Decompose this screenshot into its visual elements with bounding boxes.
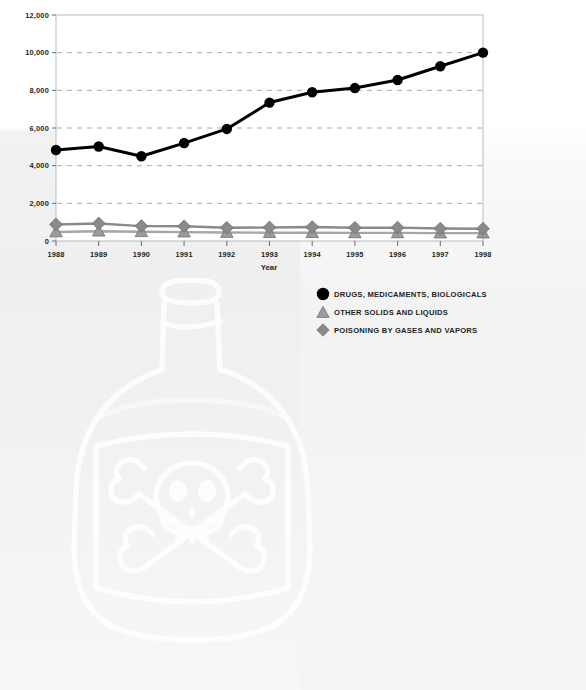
y-axis-tick-label: 4,000: [30, 161, 50, 170]
legend-triangle-icon: [316, 304, 334, 320]
data-point-circle: [392, 75, 402, 85]
x-axis-tick-label: 1998: [474, 250, 491, 259]
y-axis-tick-label: 8,000: [30, 86, 50, 95]
y-axis-tick-label: 6,000: [30, 124, 50, 133]
legend-diamond-icon: [316, 322, 334, 338]
data-point-circle: [264, 97, 274, 107]
x-axis-tick-label: 1993: [261, 250, 278, 259]
x-axis-tick-label: 1997: [432, 250, 449, 259]
chart-legend: DRUGS, MEDICAMENTS, BIOLOGICALS OTHER SO…: [316, 286, 487, 340]
line-chart: 02,0004,0006,0008,00010,00012,000 198819…: [0, 0, 586, 285]
x-axis-tick-label: 1989: [90, 250, 107, 259]
x-axis-tick-label: 1995: [346, 250, 363, 259]
legend-circle-icon: [316, 286, 334, 302]
data-point-circle: [350, 83, 360, 93]
data-point-circle: [478, 47, 488, 57]
legend-item-gases-vapors: POISONING BY GASES AND VAPORS: [316, 322, 487, 338]
y-axis-ticks: [52, 15, 56, 241]
x-axis-tick-label: 1990: [133, 250, 150, 259]
data-point-circle: [435, 61, 445, 71]
legend-label-other-solids: OTHER SOLIDS AND LIQUIDS: [334, 308, 448, 317]
x-axis-tick-label: 1988: [47, 250, 64, 259]
legend-label-drugs: DRUGS, MEDICAMENTS, BIOLOGICALS: [334, 290, 487, 299]
x-axis-ticks: [56, 241, 483, 246]
x-axis-tick-label: 1996: [389, 250, 406, 259]
y-axis-tick-label: 12,000: [25, 11, 49, 20]
legend-item-other-solids: OTHER SOLIDS AND LIQUIDS: [316, 304, 487, 320]
data-point-circle: [51, 145, 61, 155]
data-point-circle: [136, 151, 146, 161]
x-axis-labels: 1988198919901991199219931994199519961997…: [47, 250, 491, 259]
y-axis-tick-label: 10,000: [25, 48, 49, 57]
y-axis-labels: 02,0004,0006,0008,00010,00012,000: [25, 11, 49, 246]
x-axis-tick-label: 1994: [304, 250, 322, 259]
y-axis-tick-label: 2,000: [30, 199, 50, 208]
legend-item-drugs: DRUGS, MEDICAMENTS, BIOLOGICALS: [316, 286, 487, 302]
y-axis-tick-label: 0: [45, 237, 49, 246]
data-point-circle: [179, 138, 189, 148]
data-point-circle: [307, 87, 317, 97]
x-axis-title: Year: [261, 263, 277, 272]
data-point-circle: [222, 124, 232, 134]
data-point-circle: [94, 141, 104, 151]
x-axis-tick-label: 1991: [175, 250, 192, 259]
x-axis-tick-label: 1992: [218, 250, 235, 259]
legend-label-gases-vapors: POISONING BY GASES AND VAPORS: [334, 326, 477, 335]
